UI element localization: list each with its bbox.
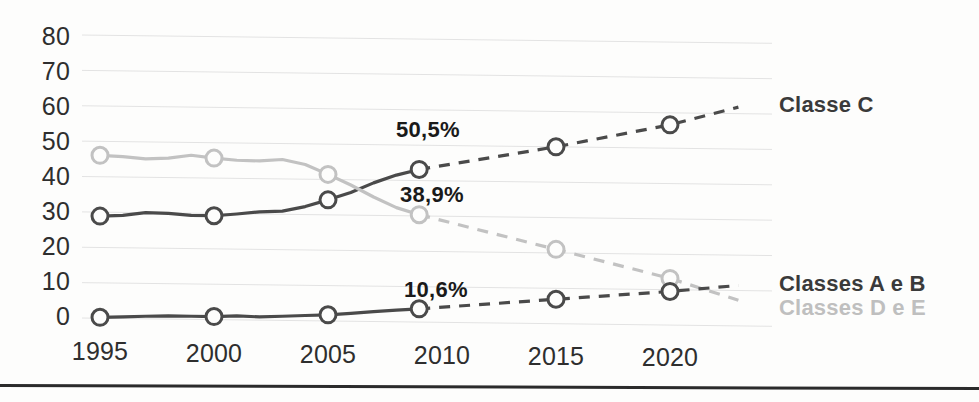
data-label-classe-c: 50,5% — [396, 117, 460, 143]
legend-item-classe-c: Classe C — [779, 92, 874, 118]
chart-plot-area — [0, 0, 979, 402]
data-label-classes-de: 38,9% — [400, 182, 464, 208]
data-label-classes-ab: 10,6% — [404, 277, 468, 303]
legend-item-classes-ab: Classes A e B — [779, 271, 926, 297]
chart-container: 80 70 60 50 40 30 20 10 0 1995 2000 2005… — [0, 0, 979, 402]
legend-item-classes-de: Classes D e E — [779, 295, 926, 321]
